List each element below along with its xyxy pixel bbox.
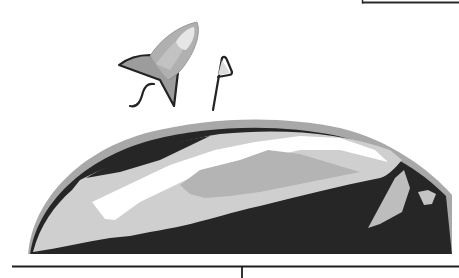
rocket-icon <box>119 22 198 106</box>
planet-dome <box>28 119 454 257</box>
top-right-frame-line <box>362 0 459 4</box>
illustration-canvas <box>0 0 459 278</box>
ground-line <box>12 266 459 278</box>
flag-icon <box>213 57 232 110</box>
